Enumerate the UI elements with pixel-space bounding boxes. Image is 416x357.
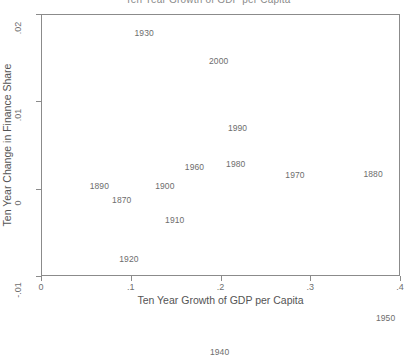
x-axis-title: Ten Year Growth of GDP per Capita	[41, 294, 400, 306]
x-tick-mark	[131, 276, 132, 281]
x-tick-label: 0	[38, 282, 43, 292]
y-tick-label: .02	[13, 13, 23, 43]
x-tick-mark	[310, 276, 311, 281]
data-point-label: 1870	[112, 195, 131, 205]
chart-title: Ten Year Growth of GDP per Capita	[0, 0, 416, 5]
x-tick-label: .3	[306, 282, 314, 292]
data-point-label: 1910	[165, 215, 184, 225]
data-point-label: 1940	[210, 347, 229, 357]
x-tick-mark	[221, 276, 222, 281]
y-tick-mark	[36, 189, 41, 190]
y-tick-mark	[36, 101, 41, 102]
data-point-label: 1930	[135, 28, 154, 38]
data-point-label: 1890	[90, 181, 109, 191]
data-point-label: 1880	[363, 169, 382, 179]
y-tick-label: -.01	[13, 275, 23, 305]
data-point-label: 1920	[119, 254, 138, 264]
data-point-label: 1990	[228, 123, 247, 133]
data-point-label: 1900	[155, 181, 174, 191]
x-tick-label: .4	[396, 282, 404, 292]
data-point-label: 1970	[285, 170, 304, 180]
y-axis-title: Ten Year Change in Finance Share	[0, 14, 14, 276]
data-point-label: 1980	[226, 159, 245, 169]
x-tick-label: .2	[217, 282, 225, 292]
plot-area	[41, 14, 400, 276]
data-point-label: 2000	[209, 56, 228, 66]
y-axis-title-label: Ten Year Change in Finance Share	[1, 64, 13, 227]
y-tick-mark	[36, 14, 41, 15]
x-tick-mark	[400, 276, 401, 281]
x-tick-label: .1	[127, 282, 135, 292]
data-point-label: 1950	[376, 313, 395, 323]
data-point-label: 1960	[185, 162, 204, 172]
y-tick-label: .01	[13, 100, 23, 130]
y-tick-label: 0	[13, 188, 23, 218]
x-tick-mark	[41, 276, 42, 281]
